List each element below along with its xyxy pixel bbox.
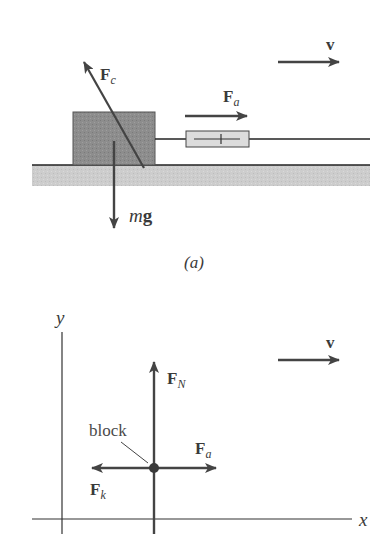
ground-surface xyxy=(32,165,370,186)
block-leader-line xyxy=(121,442,148,463)
contact-force-label: Fc xyxy=(100,65,116,87)
block-point xyxy=(149,463,159,473)
figure-a: mg Fc Fa v (a) xyxy=(32,35,370,272)
applied-force-label-fbd: Fa xyxy=(195,439,211,461)
applied-force-label: Fa xyxy=(223,87,239,109)
normal-force-label: FN xyxy=(167,369,186,391)
velocity-label-fbd: v xyxy=(326,333,335,352)
block-label: block xyxy=(89,421,127,440)
y-axis-label: y xyxy=(54,307,65,328)
weight-label: mg xyxy=(129,205,153,226)
figure-b: y x FN Fa Fk block v xyxy=(32,307,368,534)
free-body-diagram-figure: mg Fc Fa v (a) y x FN Fa xyxy=(0,0,389,534)
velocity-label: v xyxy=(326,35,335,54)
figure-a-caption: (a) xyxy=(184,253,204,272)
spring-scale xyxy=(186,131,249,147)
kinetic-friction-label: Fk xyxy=(90,480,106,502)
x-axis-label: x xyxy=(358,509,368,530)
